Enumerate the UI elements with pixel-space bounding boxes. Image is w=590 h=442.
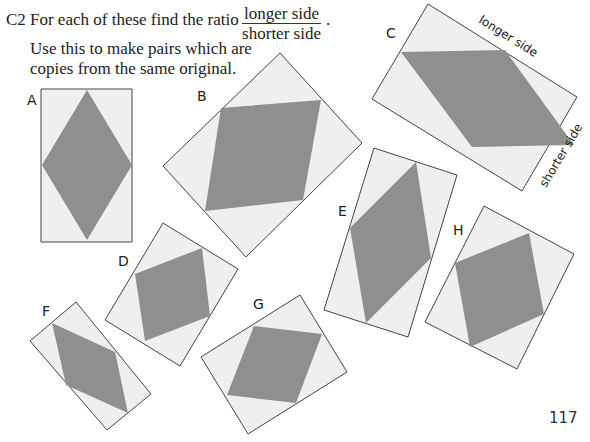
shape-g: G xyxy=(201,295,347,434)
shape-b: B xyxy=(163,53,362,257)
shape-label: F xyxy=(42,303,50,319)
shape-label: A xyxy=(27,92,37,108)
shape-label: C xyxy=(386,25,396,41)
shape-label: E xyxy=(338,203,347,219)
rectangles-figure: ABCDEFGH longer side shorter side xyxy=(0,0,590,442)
shape-label: G xyxy=(253,296,264,312)
rhombus xyxy=(205,100,321,211)
shape-label: D xyxy=(118,253,129,269)
shape-a: A xyxy=(27,89,132,242)
page-number: 117 xyxy=(549,409,578,427)
shape-label: H xyxy=(453,222,464,238)
shape-h: H xyxy=(425,206,574,369)
shape-label: B xyxy=(197,88,207,104)
shape-d: D xyxy=(105,223,238,366)
